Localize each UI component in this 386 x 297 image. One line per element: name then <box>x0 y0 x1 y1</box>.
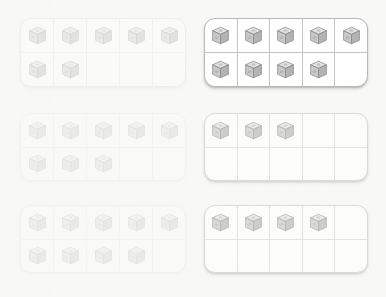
ten-frame-cell-filled[interactable] <box>87 19 120 52</box>
ten-frame-cell-empty[interactable] <box>303 114 336 147</box>
ten-frame-cell-filled[interactable] <box>238 206 271 239</box>
ten-frame-cell-filled[interactable] <box>205 53 238 86</box>
ten-frame-cell-filled[interactable] <box>303 53 336 86</box>
cube-icon[interactable] <box>276 60 295 79</box>
ten-frame-cell-filled[interactable] <box>335 19 367 52</box>
cube-icon[interactable] <box>276 26 295 45</box>
ten-frame-cell-filled[interactable] <box>205 114 238 147</box>
ten-frame-cell-filled[interactable] <box>303 19 336 52</box>
ten-frame-cell-filled[interactable] <box>21 206 54 239</box>
cube-icon[interactable] <box>276 121 295 140</box>
cube-icon[interactable] <box>127 121 146 140</box>
cube-icon[interactable] <box>276 213 295 232</box>
ten-frame-cell-empty[interactable] <box>120 53 153 86</box>
ten-frame-cell-filled[interactable] <box>270 19 303 52</box>
cube-icon[interactable] <box>61 121 80 140</box>
cube-icon[interactable] <box>127 213 146 232</box>
cube-icon[interactable] <box>94 246 113 265</box>
ten-frame-cell-filled[interactable] <box>205 19 238 52</box>
ten-frame-cell-filled[interactable] <box>270 114 303 147</box>
ten-frame-cell-filled[interactable] <box>205 206 238 239</box>
cube-icon[interactable] <box>160 26 179 45</box>
ten-frame-cell-filled[interactable] <box>120 19 153 52</box>
ten-frame-cell-filled[interactable] <box>54 240 87 273</box>
ten-frame-cell-filled[interactable] <box>153 114 185 147</box>
ten-frame-cell-empty[interactable] <box>238 240 271 273</box>
ten-frame-cell-empty[interactable] <box>270 148 303 181</box>
ten-frame-cell-empty[interactable] <box>238 148 271 181</box>
cube-icon[interactable] <box>127 26 146 45</box>
cube-icon[interactable] <box>309 60 328 79</box>
cube-icon[interactable] <box>28 246 47 265</box>
ten-frame-cell-filled[interactable] <box>21 148 54 181</box>
ten-frame-cell-filled[interactable] <box>238 53 271 86</box>
ten-frame-cell-filled[interactable] <box>54 19 87 52</box>
ten-frame-cell-filled[interactable] <box>54 53 87 86</box>
ten-frame-cell-filled[interactable] <box>270 53 303 86</box>
ten-frame-cell-filled[interactable] <box>120 114 153 147</box>
cube-icon[interactable] <box>61 26 80 45</box>
ten-frame-cell-filled[interactable] <box>120 240 153 273</box>
ten-frame-cell-empty[interactable] <box>120 148 153 181</box>
ten-frame-cell-empty[interactable] <box>335 240 367 273</box>
ten-frame-cell-empty[interactable] <box>205 148 238 181</box>
ten-frame-cell-empty[interactable] <box>153 148 185 181</box>
cube-icon[interactable] <box>61 60 80 79</box>
ten-frame-cell-empty[interactable] <box>153 53 185 86</box>
ten-frame-cell-empty[interactable] <box>303 148 336 181</box>
cube-icon[interactable] <box>28 154 47 173</box>
ten-frame-cell-filled[interactable] <box>54 114 87 147</box>
cube-icon[interactable] <box>244 213 263 232</box>
cube-icon[interactable] <box>94 154 113 173</box>
cube-icon[interactable] <box>211 213 230 232</box>
ten-frame-cell-filled[interactable] <box>21 114 54 147</box>
ten-frame[interactable] <box>204 18 368 87</box>
cube-icon[interactable] <box>28 60 47 79</box>
ten-frame-cell-filled[interactable] <box>120 206 153 239</box>
cube-icon[interactable] <box>28 121 47 140</box>
ten-frame[interactable] <box>20 113 186 181</box>
ten-frame[interactable] <box>20 18 186 87</box>
cube-icon[interactable] <box>61 213 80 232</box>
ten-frame-cell-filled[interactable] <box>54 206 87 239</box>
cube-icon[interactable] <box>94 121 113 140</box>
cube-icon[interactable] <box>211 26 230 45</box>
cube-icon[interactable] <box>309 26 328 45</box>
ten-frame[interactable] <box>204 205 368 273</box>
cube-icon[interactable] <box>160 213 179 232</box>
ten-frame-cell-empty[interactable] <box>335 53 367 86</box>
cube-icon[interactable] <box>244 121 263 140</box>
ten-frame-cell-filled[interactable] <box>87 114 120 147</box>
cube-icon[interactable] <box>244 60 263 79</box>
ten-frame[interactable] <box>204 113 368 181</box>
ten-frame-cell-filled[interactable] <box>21 240 54 273</box>
cube-icon[interactable] <box>342 26 361 45</box>
cube-icon[interactable] <box>94 213 113 232</box>
ten-frame[interactable] <box>20 205 186 273</box>
cube-icon[interactable] <box>94 26 113 45</box>
cube-icon[interactable] <box>61 246 80 265</box>
cube-icon[interactable] <box>127 246 146 265</box>
ten-frame-cell-filled[interactable] <box>87 206 120 239</box>
ten-frame-cell-filled[interactable] <box>238 19 271 52</box>
ten-frame-cell-empty[interactable] <box>335 148 367 181</box>
ten-frame-cell-empty[interactable] <box>270 240 303 273</box>
ten-frame-cell-empty[interactable] <box>205 240 238 273</box>
cube-icon[interactable] <box>160 121 179 140</box>
cube-icon[interactable] <box>28 26 47 45</box>
ten-frame-cell-filled[interactable] <box>21 53 54 86</box>
ten-frame-cell-filled[interactable] <box>303 206 336 239</box>
ten-frame-cell-empty[interactable] <box>335 206 367 239</box>
cube-icon[interactable] <box>244 26 263 45</box>
cube-icon[interactable] <box>28 213 47 232</box>
ten-frame-cell-filled[interactable] <box>153 206 185 239</box>
ten-frame-cell-filled[interactable] <box>21 19 54 52</box>
ten-frame-cell-empty[interactable] <box>153 240 185 273</box>
ten-frame-cell-filled[interactable] <box>87 240 120 273</box>
ten-frame-cell-filled[interactable] <box>270 206 303 239</box>
cube-icon[interactable] <box>309 213 328 232</box>
cube-icon[interactable] <box>211 60 230 79</box>
cube-icon[interactable] <box>61 154 80 173</box>
ten-frame-cell-empty[interactable] <box>87 53 120 86</box>
cube-icon[interactable] <box>211 121 230 140</box>
